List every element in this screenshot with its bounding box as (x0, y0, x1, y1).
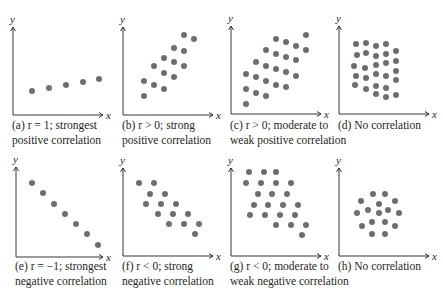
data-point (370, 191, 376, 197)
caption-d: (d) No correlation (338, 118, 421, 133)
data-point (385, 207, 391, 213)
data-point (273, 66, 279, 72)
data-point (263, 47, 269, 53)
scatter-panel-f: yx (119, 154, 221, 262)
data-point (283, 54, 289, 60)
caption-a-line1: (a) r = 1; strongest (12, 118, 101, 133)
data-point (283, 84, 289, 90)
data-point (354, 52, 360, 58)
data-point (393, 58, 399, 64)
data-point (273, 222, 279, 228)
scatter-panel-a: yx (9, 13, 111, 121)
y-axis-label: y (335, 12, 341, 24)
data-point (363, 40, 369, 46)
caption-f-line1: (f) r < 0; strong (122, 259, 214, 274)
data-point (293, 57, 299, 63)
y-axis-label: y (12, 153, 18, 165)
data-point (373, 62, 379, 68)
data-point (151, 82, 157, 88)
data-point (383, 94, 389, 100)
data-point (170, 211, 176, 217)
data-point (284, 191, 290, 197)
scatter-panel-h: yx (335, 154, 437, 262)
caption-a: (a) r = 1; strongest positive correlatio… (12, 118, 101, 148)
x-axis-label: x (431, 108, 437, 120)
data-point (392, 198, 398, 204)
data-point (303, 47, 309, 53)
data-point (40, 190, 46, 196)
data-point (185, 211, 191, 217)
caption-d-line1: (d) No correlation (338, 118, 421, 133)
data-point (181, 48, 187, 54)
data-point (136, 180, 142, 186)
data-point (263, 63, 269, 69)
data-point (383, 41, 389, 47)
data-point (383, 85, 389, 91)
data-point (363, 86, 369, 92)
caption-b: (b) r > 0; strong positive correlation (122, 118, 211, 148)
data-point (373, 53, 379, 59)
data-point (273, 36, 279, 42)
data-point (243, 71, 249, 77)
data-point (359, 223, 365, 229)
data-point (382, 191, 388, 197)
data-point (191, 36, 197, 42)
data-point (181, 63, 187, 69)
data-point (393, 92, 399, 98)
data-point (263, 93, 269, 99)
data-point (158, 201, 164, 207)
data-point (362, 65, 368, 71)
data-point (161, 55, 167, 61)
data-point (383, 60, 389, 66)
data-point (363, 75, 369, 81)
data-point (393, 68, 399, 74)
data-point (62, 211, 68, 217)
data-point (263, 78, 269, 84)
data-point (376, 210, 382, 216)
data-point (299, 232, 305, 238)
correlation-scatterplot-figure: yxyxyxyxyxyxyxyx (a) r = 1; strongest po… (0, 0, 443, 292)
caption-a-line2: positive correlation (12, 133, 101, 148)
y-axis-label: y (119, 13, 125, 25)
data-point (273, 51, 279, 57)
data-point (293, 43, 299, 49)
caption-h-line1: (h) No correlation (338, 259, 421, 274)
data-point (262, 212, 268, 218)
caption-c: (c) r > 0; moderate to weak positive cor… (230, 118, 346, 148)
caption-f-line2: negative correlation (122, 274, 214, 289)
data-point (181, 221, 187, 227)
data-point (392, 223, 398, 229)
data-point (147, 191, 153, 197)
caption-e: (e) r = −1; strongest negative correlati… (15, 259, 107, 289)
data-point (365, 207, 371, 213)
data-point (354, 210, 360, 216)
data-point (151, 63, 157, 69)
data-point (253, 59, 259, 65)
data-point (363, 50, 369, 56)
data-point (73, 221, 79, 227)
data-point (283, 69, 289, 75)
caption-e-line2: negative correlation (15, 274, 107, 289)
data-point (351, 63, 357, 69)
data-point (181, 32, 187, 38)
data-point (273, 169, 279, 175)
data-point (96, 76, 102, 82)
caption-g: (g) r < 0; moderate to weak negative cor… (230, 259, 349, 289)
data-point (265, 202, 271, 208)
x-axis-label: x (215, 109, 221, 121)
scatter-panel-g: yx (227, 154, 329, 262)
data-point (280, 202, 286, 208)
caption-e-line1: (e) r = −1; strongest (15, 259, 107, 274)
data-point (303, 32, 309, 38)
data-point (243, 86, 249, 92)
data-point (141, 78, 147, 84)
data-point (261, 169, 267, 175)
y-axis-label: y (227, 12, 233, 24)
data-point (192, 231, 198, 237)
data-point (383, 73, 389, 79)
data-point (143, 201, 149, 207)
data-point (288, 222, 294, 228)
data-point (382, 231, 388, 237)
data-point (251, 202, 257, 208)
data-point (277, 212, 283, 218)
